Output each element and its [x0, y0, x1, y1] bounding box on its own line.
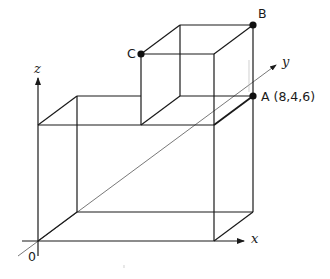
- large-box: [38, 96, 253, 241]
- diagram-canvas: A (8,4,6) B C x y z 0: [0, 0, 330, 279]
- y-axis-label: y: [282, 55, 289, 68]
- x-axis-label: x: [251, 232, 258, 245]
- point-b: [249, 21, 256, 28]
- top-box: [141, 25, 253, 125]
- point-a: [249, 92, 256, 99]
- point-c: [137, 50, 144, 57]
- box-diagram-svg: [0, 0, 330, 279]
- origin-label: 0: [28, 251, 36, 264]
- point-b-label: B: [258, 8, 267, 21]
- point-a-label: A (8,4,6): [261, 91, 315, 104]
- z-axis-label: z: [34, 62, 41, 75]
- point-c-label: C: [127, 48, 136, 61]
